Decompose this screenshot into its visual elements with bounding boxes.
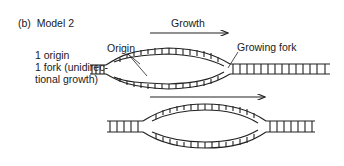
- bubble-bottom-inner-upper: [152, 110, 258, 123]
- bubble-top-inner-lower: [114, 72, 224, 84]
- bubble-bottom-inner-lower: [152, 130, 258, 142]
- left-duplex-top: [90, 65, 106, 74]
- right-duplex-bottom: [266, 121, 315, 132]
- left-duplex-bottom: [107, 121, 143, 132]
- replication-diagram: [0, 0, 344, 166]
- right-duplex-top: [230, 64, 330, 74]
- origin-pointer: [128, 54, 147, 76]
